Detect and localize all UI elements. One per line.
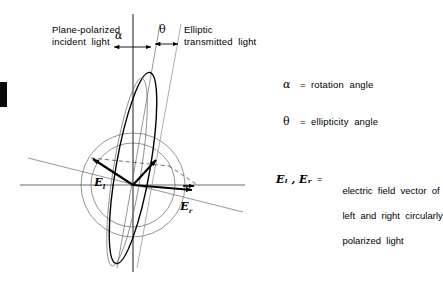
legend-vector-equals: = [317, 173, 327, 185]
vector-er-subscript: r [189, 208, 192, 216]
vector-er-symbol: E [180, 200, 188, 213]
vector-el-label: El [79, 163, 105, 206]
legend-alpha-symbol: α [283, 78, 300, 91]
legend-theta-equals: = [300, 116, 311, 128]
scan-artifact-mark [0, 82, 7, 107]
legend-vector-line2: left and right circularly [342, 210, 442, 221]
legend-vector-line3: polarized light [342, 235, 403, 246]
caption-transmitted-light: Elliptic transmitted light [184, 24, 256, 47]
vector-el-subscript: l [103, 184, 105, 192]
polarization-ellipse-ghost [98, 76, 155, 268]
legend-alpha-equals: = [300, 79, 311, 91]
legend-theta-symbol: θ [283, 115, 300, 128]
legend-vector-text: electric field vector of left and right … [327, 173, 443, 259]
vector-el-symbol: E [94, 176, 102, 189]
legend-vector-definition: Eₗ , Eᵣ = electric field vector of left … [276, 173, 443, 259]
theta-angle-label: θ [159, 23, 166, 36]
alpha-angle-label: α [115, 29, 122, 42]
legend-alpha-text: rotation angle [311, 79, 373, 91]
legend-vector-symbols: Eₗ , Eᵣ [276, 173, 317, 186]
legend-row-alpha: α = rotation angle [283, 78, 378, 91]
legend-row-theta: θ = ellipticity angle [283, 115, 378, 128]
legend-angle-definitions: α = rotation angle θ = ellipticity angle [283, 55, 378, 151]
vector-er-label: Er [165, 187, 192, 230]
theta-reference-line [137, 24, 181, 268]
legend-theta-text: ellipticity angle [311, 116, 378, 128]
caption-incident-light: Plane-polarized incident light [52, 24, 120, 47]
legend-vector-line1: electric field vector of [342, 185, 439, 196]
